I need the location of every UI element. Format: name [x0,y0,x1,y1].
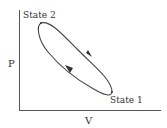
cycle-loop [38,23,112,95]
state-2-point [40,22,42,24]
pv-diagram: P V State 2 State 1 [0,0,167,128]
y-axis-label: P [8,58,15,69]
state-2-label: State 2 [23,10,56,20]
state-1-label: State 1 [110,95,143,105]
arrow-up-left-icon [65,65,73,73]
arrow-down-right-icon [86,50,92,57]
state-1-point [111,91,113,93]
x-axis-label: V [84,115,93,126]
